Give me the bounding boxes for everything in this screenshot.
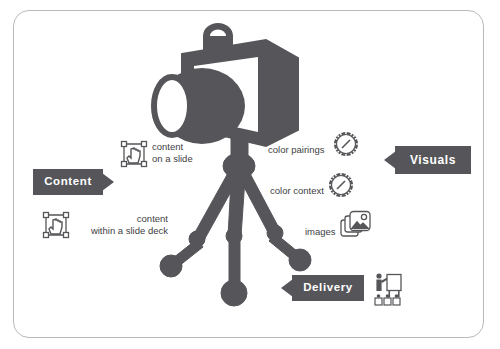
color-wheel-icon xyxy=(333,131,359,157)
label-content-on-slide-line1: content xyxy=(152,141,183,152)
badge-visuals-label: Visuals xyxy=(410,154,456,166)
label-color-pairings-text: color pairings xyxy=(268,144,325,155)
color-wheel-icon xyxy=(328,172,354,198)
badge-delivery-label: Delivery xyxy=(303,282,353,294)
label-content-within-slide-deck: content within a slide deck xyxy=(86,213,168,236)
label-content-on-slide: content on a slide xyxy=(152,141,193,164)
badge-content[interactable]: Content xyxy=(33,169,103,195)
label-color-context: color context xyxy=(270,185,324,197)
select-cursor-icon xyxy=(41,210,71,240)
diagram-canvas: Content Visuals Delivery content on a sl… xyxy=(0,0,500,349)
badge-delivery[interactable]: Delivery xyxy=(292,275,364,301)
badge-visuals-arrow xyxy=(384,151,396,169)
label-content-on-slide-line2: on a slide xyxy=(152,153,193,165)
tripod-leg-right xyxy=(235,164,311,271)
badge-visuals[interactable]: Visuals xyxy=(395,146,471,174)
label-content-within-slide-deck-line2: within a slide deck xyxy=(86,225,168,237)
badge-content-arrow xyxy=(102,173,114,191)
label-images-text: images xyxy=(305,226,336,237)
label-color-pairings: color pairings xyxy=(268,144,325,156)
presenter-flipchart-icon xyxy=(373,272,405,308)
images-icon xyxy=(340,209,372,239)
select-cursor-icon xyxy=(119,139,149,169)
camera-viewfinder xyxy=(203,23,233,50)
label-images: images xyxy=(305,226,336,238)
badge-content-label: Content xyxy=(44,176,92,188)
camera-lens xyxy=(154,68,245,144)
badge-delivery-arrow xyxy=(281,279,293,297)
label-color-context-text: color context xyxy=(270,185,324,196)
label-content-within-slide-deck-line1: content xyxy=(137,213,168,224)
